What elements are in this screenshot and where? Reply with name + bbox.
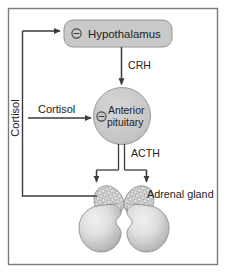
diagram-canvas: Hypothalamus CRH Anterior pituitary A [0, 0, 231, 279]
hypothalamus-label: Hypothalamus [88, 28, 161, 40]
anterior-pituitary-inhibition-icon [97, 112, 106, 121]
cortisol-pituitary-label: Cortisol [38, 103, 75, 115]
adrenal-gland-label: Adrenal gland [147, 188, 214, 200]
cortisol-hypothalamus-label: Cortisol [9, 99, 21, 136]
node-hypothalamus: Hypothalamus [64, 20, 172, 47]
acth-label: ACTH [131, 147, 160, 159]
hpa-axis-diagram: Hypothalamus CRH Anterior pituitary A [0, 0, 231, 279]
node-anterior-pituitary: Anterior pituitary [94, 88, 151, 145]
hypothalamus-inhibition-icon [72, 29, 81, 38]
anterior-pituitary-label-line2: pituitary [107, 117, 144, 128]
anterior-pituitary-label-line1: Anterior [108, 105, 145, 116]
crh-label: CRH [128, 59, 151, 71]
